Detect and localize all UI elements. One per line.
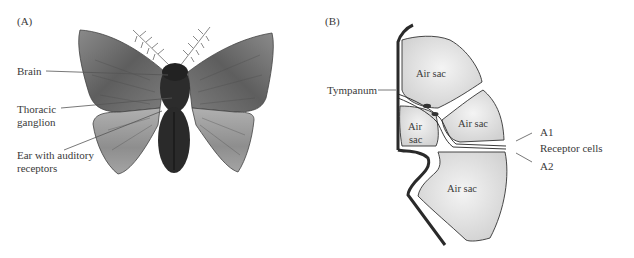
label-brain: Brain [17, 65, 41, 77]
label-a1: A1 [540, 126, 553, 138]
label-thoracic-ganglion-line1: Thoracic [17, 103, 56, 115]
panel-a-moth: (A) Brain Thoracic ganglion Ear with aud… [0, 0, 320, 258]
label-ear-line1: Ear with auditory [17, 149, 94, 161]
receptor-cell-1 [423, 104, 431, 108]
air-sac-small-left-label-1: Air [408, 121, 422, 133]
label-tympanum: Tympanum [327, 84, 377, 96]
label-receptor-cells: Receptor cells [540, 142, 603, 154]
panel-b-tag: (B) [325, 15, 340, 27]
moth-head [162, 63, 188, 81]
air-sac-middle-right-label: Air sac [458, 118, 488, 130]
panel-a-tag: (A) [17, 15, 32, 27]
right-forewing [188, 33, 273, 112]
air-sac-top-label: Air sac [416, 68, 446, 80]
label-a2: A2 [540, 160, 553, 172]
panel-b-ear-section: (B) Tympanum A1 Receptor cells A2 Air sa… [320, 0, 634, 258]
air-sac-small-left-label-2: sac [409, 134, 422, 146]
label-ear-line2: receptors [17, 162, 57, 174]
label-thoracic-ganglion-line2: ganglion [17, 116, 56, 128]
receptor-cell-2 [432, 112, 439, 116]
moth-illustration [0, 0, 320, 258]
air-sac-bottom-label: Air sac [447, 183, 477, 195]
right-hindwing [192, 108, 254, 172]
